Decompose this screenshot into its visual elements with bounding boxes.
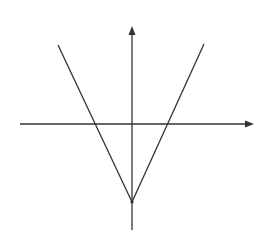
vertex-point [130, 200, 133, 203]
x-axis [20, 121, 254, 128]
right-branch-line [132, 44, 204, 202]
y-axis [129, 26, 136, 230]
function-graph [0, 0, 260, 236]
y-axis-arrow-icon [129, 26, 136, 35]
x-axis-arrow-icon [245, 121, 254, 128]
